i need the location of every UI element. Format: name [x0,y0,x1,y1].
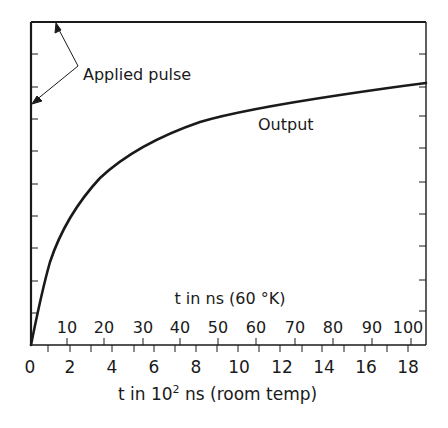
y-ticks [31,54,426,313]
lower-tick-label: 10 [228,357,250,377]
lower-tick-label: 2 [65,357,76,377]
lower-tick-label: 0 [25,357,36,377]
upper-tick-label: 60 [246,318,266,337]
lower-tick-labels: 0 2 4 6 8 10 12 14 16 18 [25,357,419,377]
lower-tick-label: 4 [107,357,118,377]
upper-tick-label: 100 [393,318,424,337]
upper-tick-label: 90 [362,318,382,337]
lower-tick-label: 12 [271,357,293,377]
applied-pulse-arrows [32,23,78,104]
lower-axis-title-suffix: ns (room temp) [180,384,318,404]
lower-axis-title-prefix: t in 10 [118,384,173,404]
lower-axis-title: t in 102 ns (room temp) [118,383,317,404]
upper-tick-label: 20 [94,318,114,337]
lower-axis-title-exponent: 2 [173,383,180,396]
upper-tick-label: 30 [133,318,153,337]
lower-tick-label: 16 [355,357,377,377]
upper-tick-labels: 10 20 30 40 50 60 70 80 90 100 [57,318,423,337]
lower-tick-label: 6 [149,357,160,377]
output-label: Output [258,115,314,134]
upper-tick-label: 50 [208,318,228,337]
upper-tick-label: 80 [323,318,343,337]
upper-axis-title: t in ns (60 °K) [174,289,285,308]
lower-axis-ticks [48,345,408,352]
upper-axis-ticks [67,338,411,345]
chart: Applied pulse Output t in ns (60 °K) 10 … [0,0,448,428]
applied-pulse-label: Applied pulse [83,65,191,84]
lower-tick-label: 18 [397,357,419,377]
upper-tick-label: 10 [57,318,77,337]
upper-tick-label: 70 [285,318,305,337]
lower-tick-label: 8 [191,357,202,377]
lower-tick-label: 14 [313,357,335,377]
upper-tick-label: 40 [170,318,190,337]
